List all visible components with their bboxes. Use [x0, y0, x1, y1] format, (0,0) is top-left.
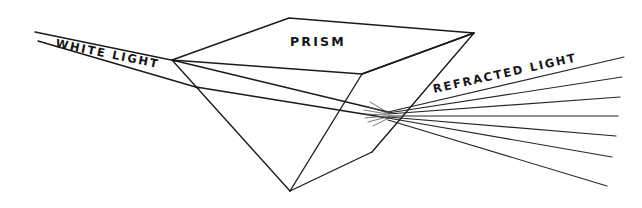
refracted-ray-6	[388, 118, 612, 157]
prism-label: PRISM	[290, 34, 346, 49]
internal-ray-lower	[196, 87, 388, 118]
refracted-ray-3	[388, 97, 620, 114]
refracted-ray-2	[388, 77, 622, 113]
refracted-ray-7	[388, 120, 607, 186]
refracted-ray-5	[388, 117, 616, 136]
prism-diagram-figure: PRISM WHITE LIGHT REFRACTED LIGHT	[0, 0, 642, 208]
dispersion-hatching	[364, 102, 387, 126]
prism-front-left-edge	[172, 60, 290, 191]
internal-beam	[172, 60, 388, 118]
prism-right-face-edge	[372, 33, 474, 152]
diagram-canvas: PRISM WHITE LIGHT REFRACTED LIGHT	[0, 0, 642, 208]
white-light-label: WHITE LIGHT	[54, 36, 160, 71]
